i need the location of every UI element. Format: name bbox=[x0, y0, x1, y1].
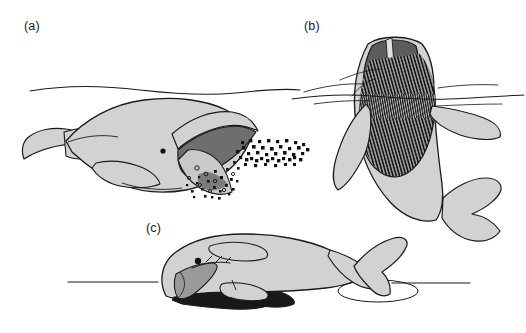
panel-a-eye-icon bbox=[160, 148, 165, 153]
panel-label-c: (c) bbox=[146, 221, 161, 235]
panel-a-water-line bbox=[30, 86, 300, 94]
panel-label-b: (b) bbox=[304, 19, 320, 33]
whale-feeding-figure: (a) (b) (c) bbox=[0, 0, 526, 333]
panel-label-a: (a) bbox=[24, 19, 40, 33]
panel-b-ripple-4 bbox=[438, 85, 498, 88]
panel-a-group bbox=[22, 86, 309, 199]
panel-c-group bbox=[68, 234, 470, 309]
panel-b-left-flipper bbox=[334, 104, 371, 190]
panel-b-ripple-5 bbox=[436, 104, 502, 106]
panel-b-tail-fluke bbox=[442, 178, 501, 241]
panel-c-eye-icon bbox=[195, 258, 201, 264]
figure-canvas bbox=[0, 0, 526, 333]
panel-b-group bbox=[292, 37, 524, 241]
panel-b-right-flipper bbox=[430, 106, 500, 139]
